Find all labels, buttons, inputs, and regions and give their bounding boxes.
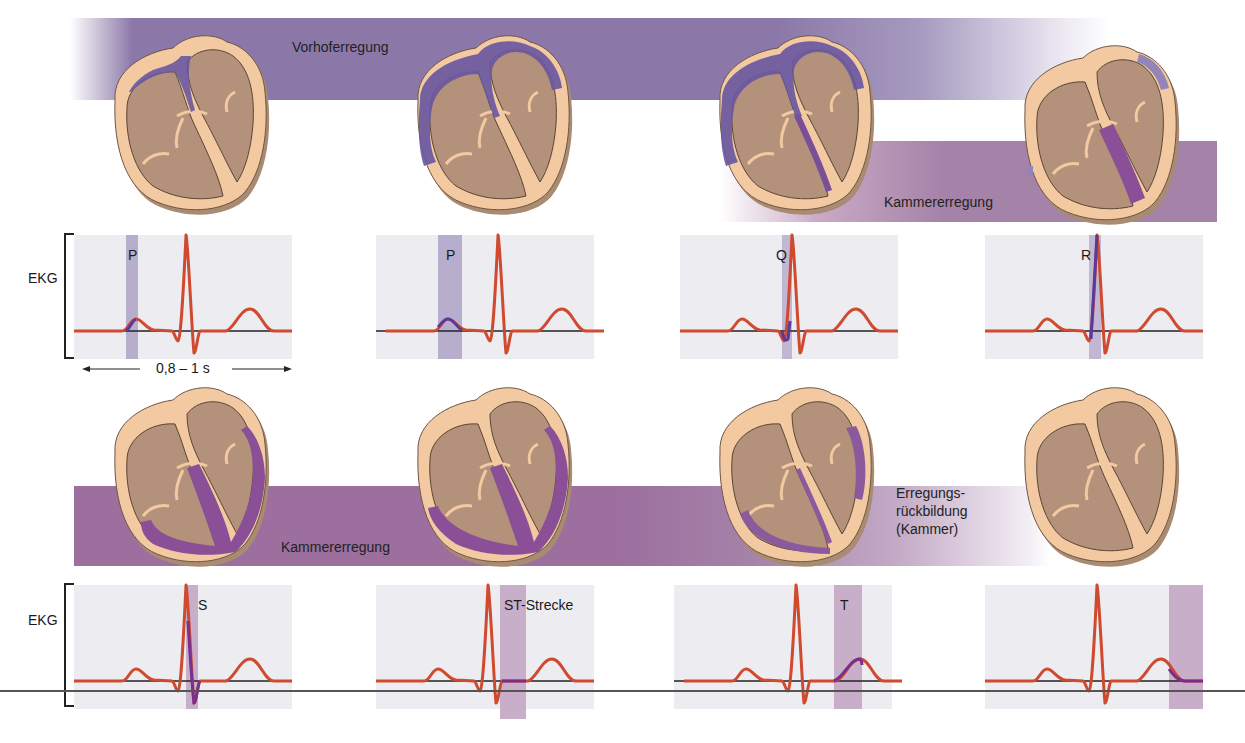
heart-step-4 bbox=[1005, 40, 1190, 234]
heart-step-5 bbox=[95, 382, 280, 576]
wave-label-q: Q bbox=[776, 247, 787, 263]
wave-label-p: P bbox=[128, 247, 137, 263]
wave-label-t: T bbox=[840, 597, 849, 613]
wave-label-st: ST-Strecke bbox=[504, 597, 573, 613]
ekg-scale-bracket-top bbox=[64, 233, 74, 359]
wave-label-r: R bbox=[1081, 247, 1091, 263]
ekg-axis-label-bottom: EKG bbox=[28, 612, 58, 628]
heart-step-1 bbox=[95, 30, 280, 224]
duration-arrow: 0,8 – 1 s bbox=[82, 360, 292, 378]
heart-step-2 bbox=[398, 30, 583, 224]
heart-step-8 bbox=[1005, 382, 1190, 576]
ekg-panel-3: Q bbox=[680, 235, 898, 359]
heart-step-6 bbox=[398, 382, 583, 576]
ekg-axis-label-top: EKG bbox=[28, 270, 58, 286]
ventricular-excitation-label-top: Kammererregung bbox=[884, 193, 993, 211]
duration-label: 0,8 – 1 s bbox=[156, 360, 210, 376]
atrial-excitation-label: Vorhoferregung bbox=[292, 38, 389, 56]
ventricular-excitation-label-bottom: Kammererregung bbox=[281, 538, 390, 556]
wave-label-s: S bbox=[198, 597, 207, 613]
heart-step-3 bbox=[700, 30, 885, 224]
ekg-panel-1: P bbox=[74, 235, 292, 359]
ekg-scale-bracket-bottom bbox=[64, 583, 74, 707]
wave-label-p: P bbox=[446, 247, 455, 263]
bottom-divider bbox=[0, 690, 1245, 692]
heart-step-7 bbox=[700, 382, 885, 576]
ekg-panel-2: P bbox=[376, 235, 594, 359]
ekg-panel-4: R bbox=[985, 235, 1203, 359]
repolarization-label: Erregungs- rückbildung (Kammer) bbox=[896, 484, 968, 538]
